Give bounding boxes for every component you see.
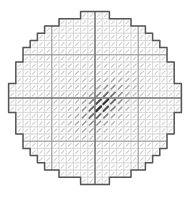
- figure-title-clipped: — — — — — — — —: [0, 0, 186, 4]
- octagonal-tick-grid-plot: [0, 0, 186, 199]
- figure-root: — — — — — — — —: [0, 0, 186, 199]
